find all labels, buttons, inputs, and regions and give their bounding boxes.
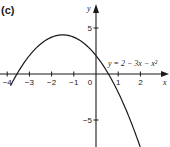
y-axis-label: y: [86, 4, 91, 13]
x-tick-label: 1: [116, 78, 121, 87]
x-tick-label: 0: [88, 78, 93, 87]
parabola-curve: [11, 35, 149, 147]
x-tick-label: −1: [69, 78, 79, 87]
equation-label: y = 2 − 3x − x²: [107, 59, 158, 68]
x-tick-label: −2: [47, 78, 57, 87]
y-tick-label: 5: [88, 24, 93, 33]
quadratic-graph: xy−4−3−2−10125−5 y = 2 − 3x − x²: [0, 0, 170, 147]
axes: [0, 4, 169, 147]
y-tick-label: −5: [83, 116, 93, 125]
x-axis-label: x: [162, 78, 167, 87]
x-axis-arrow-icon: [161, 71, 169, 77]
x-tick-label: −3: [25, 78, 35, 87]
x-tick-label: 2: [138, 78, 143, 87]
y-axis-arrow-icon: [93, 4, 99, 13]
